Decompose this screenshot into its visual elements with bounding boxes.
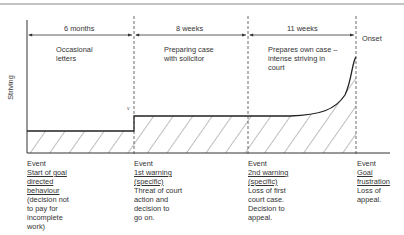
event-1: Event Start of goal directed behaviour (… (27, 159, 69, 231)
event-4: Event Goal frustration Loss of appeal. (357, 159, 390, 204)
y-axis-label: Striving (6, 75, 15, 100)
onset-label: Onset (362, 34, 382, 43)
period-2-description: Preparing case with solicitor (164, 45, 214, 63)
period-2-duration: 8 weeks (176, 24, 203, 33)
event-2: Event 1st warning (specific) Threat of c… (134, 159, 182, 222)
svg-text:v: v (127, 105, 130, 111)
period-3-duration: 11 weeks (287, 24, 318, 33)
period-1-duration: 6 months (64, 24, 94, 33)
event-3: Event 2nd warning (specific) Loss of fir… (248, 159, 288, 222)
period-3-description: Prepares own case – intense striving in … (268, 45, 337, 72)
period-1-description: Occasional letters (56, 45, 93, 63)
